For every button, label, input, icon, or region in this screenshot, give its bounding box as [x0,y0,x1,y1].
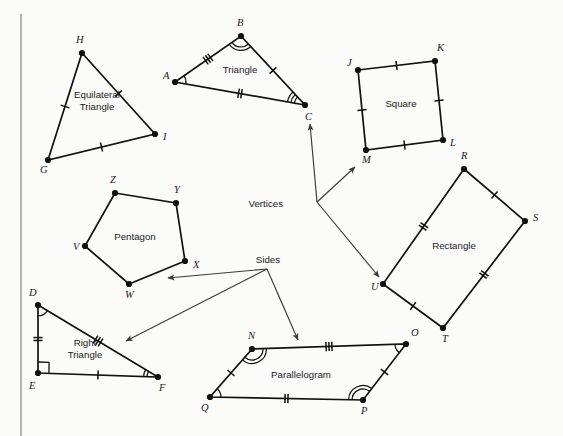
vertex-label-Q: Q [201,402,209,413]
shape-label-equilateral-triangle: Triangle [80,101,115,112]
side-tick-square-3 [357,110,366,111]
angle-arc-parallelogram-O [395,344,399,352]
side-tick-triangle-0 [203,54,213,65]
annotation-label-sides-annotation: Sides [256,254,280,265]
shape-label-pentagon: Pentagon [114,231,155,242]
tick-mark [241,89,243,98]
shape-label-rectangle: Rectangle [432,240,476,251]
vertex-point-Q [207,394,213,400]
shape-label-right-triangle: Triangle [68,349,103,360]
vertex-point-C [302,102,308,108]
angle-arc-triangle-B [232,42,249,47]
vertex-point-U [380,281,386,287]
shape-label-right-triangle: Right [74,337,97,348]
vertex-point-K [432,58,438,64]
vertex-label-C: C [305,111,313,122]
vertex-label-E: E [28,380,36,391]
vertex-point-T [440,325,446,331]
vertex-label-X: X [192,259,200,270]
tick-mark [238,89,240,98]
angle-arc-right-triangle-F [144,370,146,377]
side-tick-square-0 [396,61,397,70]
tick-mark [357,110,366,111]
side-tick-square-1 [434,100,443,101]
angle-arc-triangle-C [294,97,297,103]
tick-mark [434,100,443,101]
vertex-point-M [363,147,369,153]
annotation-sides-annotation: Sides [126,254,298,341]
vertex-point-A [172,79,178,85]
side-tick-square-2 [404,140,405,149]
tick-mark [100,143,102,152]
vertex-point-S [522,218,528,224]
vertex-label-O: O [411,327,419,338]
vertex-label-V: V [73,241,81,252]
annotations-layer: VerticesSides [126,124,379,341]
vertex-point-Z [112,190,118,196]
vertex-label-S: S [533,212,539,223]
leader-arrow-sides-annotation-right-triangle-hypotenuse-DF [126,269,267,341]
vertex-point-P [360,397,366,403]
shape-parallelogram: NOPQParallelogram [201,327,419,416]
vertex-label-F: F [158,382,166,393]
vertex-point-H [79,50,85,56]
shape-right-triangle: DFERightTriangle [28,287,166,393]
side-tick-equilateral-triangle-1 [100,143,102,152]
vertex-label-Z: Z [110,174,116,185]
leader-arrow-sides-annotation-parallelogram-side-NO [267,269,298,340]
vertex-label-A: A [162,70,170,81]
vertex-label-D: D [28,287,37,298]
annotation-label-vertices-annotation: Vertices [249,198,284,209]
angle-arc-right-triangle-D [38,311,47,316]
vertex-label-R: R [460,150,468,161]
shape-label-parallelogram: Parallelogram [271,369,331,380]
vertex-point-Y [173,200,179,206]
vertex-point-G [45,157,51,163]
vertex-label-I: I [162,131,167,142]
vertex-point-N [249,346,255,352]
vertex-label-N: N [247,330,256,341]
leader-arrow-vertices-annotation-vertex-U [317,202,379,277]
shape-label-triangle: Triangle [223,64,258,75]
vertex-point-O [403,341,409,347]
shapes-layer: HIGEquilateralTriangleABCTriangleJKLMSqu… [28,17,539,416]
leader-arrow-vertices-annotation-vertex-C [310,124,317,202]
vertex-point-L [440,137,446,143]
shape-square: JKLMSquare [347,42,456,165]
shape-equilateral-triangle: HIGEquilateralTriangle [40,34,167,175]
angle-arc-parallelogram-Q [217,389,221,398]
vertex-point-X [182,258,188,264]
vertex-label-K: K [436,42,445,53]
shape-label-square: Square [385,98,416,109]
vertex-point-E [35,370,41,376]
vertex-point-V [82,243,88,249]
vertex-point-F [155,374,161,380]
angle-arc-triangle-A [184,76,186,84]
vertex-label-P: P [360,405,368,416]
vertex-label-G: G [40,164,48,175]
shape-rectangle: RSTURectangle [371,150,539,344]
geometry-figure: HIGEquilateralTriangleABCTriangleJKLMSqu… [0,0,563,436]
tick-mark [404,140,405,149]
vertex-label-T: T [442,333,449,344]
vertex-point-J [355,67,361,73]
vertex-label-W: W [125,289,135,300]
vertex-point-I [152,131,158,137]
vertex-label-L: L [449,137,456,148]
vertex-label-H: H [75,34,85,45]
tick-mark [410,302,415,309]
shape-pentagon: ZYXWVPentagon [73,174,200,300]
vertex-point-B [238,33,244,39]
vertex-point-R [461,166,467,172]
tick-mark [396,61,397,70]
shape-label-equilateral-triangle: Equilateral [74,89,120,100]
shape-triangle: ABCTriangle [162,17,313,122]
vertex-label-U: U [371,281,380,292]
vertex-point-W [126,281,132,287]
side-tick-rectangle-2 [410,302,415,309]
leader-arrow-vertices-annotation-vertex-M [317,167,355,202]
vertex-point-D [35,302,41,308]
vertex-label-J: J [347,57,353,68]
vertex-label-Y: Y [174,184,181,195]
angle-arc-triangle-C [287,92,292,102]
